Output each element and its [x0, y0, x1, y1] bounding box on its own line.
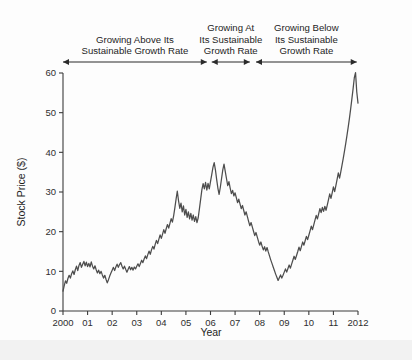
- y-ticklabel: 0: [51, 305, 56, 316]
- arrow-head-left-icon: [212, 59, 218, 65]
- y-axis-ticks: [59, 73, 63, 311]
- x-ticklabel: 10: [304, 317, 315, 328]
- y-axis-ticklabels: 0102030405060: [45, 67, 56, 316]
- arrow-head-left-icon: [63, 59, 69, 65]
- y-ticklabel: 50: [45, 107, 56, 118]
- x-ticklabel: 08: [254, 317, 265, 328]
- arrow-head-left-icon: [256, 59, 262, 65]
- x-ticklabel: 05: [181, 317, 192, 328]
- annotation-text-line: Growing Above Its: [96, 34, 174, 45]
- annotations-layer: Growing Above ItsSustainable Growth Rate…: [63, 22, 357, 65]
- y-ticklabel: 20: [45, 226, 56, 237]
- x-ticklabel: 11: [328, 317, 338, 328]
- x-ticklabel: 2012: [347, 317, 368, 328]
- y-axis-title: Stock Price ($): [15, 158, 27, 227]
- annotation-phase-1: Growing Above ItsSustainable Growth Rate: [63, 34, 207, 66]
- plot-area: 0102030405060 20000102030405060708091011…: [45, 67, 368, 328]
- annotation-text-line: Its Sustainable: [275, 34, 338, 45]
- arrow-head-right-icon: [351, 59, 357, 65]
- stock-price-line-chart: Growing Above ItsSustainable Growth Rate…: [0, 0, 412, 360]
- figure-container: Growing Above ItsSustainable Growth Rate…: [0, 0, 412, 360]
- annotation-text-line: Growing At: [207, 22, 254, 33]
- x-ticklabel: 09: [279, 317, 290, 328]
- x-ticklabel: 02: [107, 317, 118, 328]
- arrow-head-right-icon: [201, 59, 207, 65]
- x-ticklabel: 2000: [52, 317, 73, 328]
- annotation-phase-2: Growing AtIts SustainableGrowth Rate: [199, 22, 262, 65]
- x-ticklabel: 07: [230, 317, 241, 328]
- stock-price-series-line: [63, 73, 358, 292]
- annotation-text-line: Growth Rate: [204, 45, 258, 56]
- x-axis-title: Year: [200, 326, 222, 338]
- annotation-phase-3: Growing BelowIts SustainableGrowth Rate: [256, 22, 357, 65]
- x-ticklabel: 01: [82, 317, 93, 328]
- y-ticklabel: 60: [45, 67, 56, 78]
- arrow-head-right-icon: [244, 59, 250, 65]
- y-ticklabel: 40: [45, 147, 56, 158]
- annotation-text-line: Its Sustainable: [199, 34, 262, 45]
- annotation-text-line: Sustainable Growth Rate: [82, 45, 189, 56]
- x-ticklabel: 03: [131, 317, 142, 328]
- annotation-text-line: Growing Below: [274, 22, 339, 33]
- annotation-text-line: Growth Rate: [279, 45, 333, 56]
- x-axis-ticks: [63, 311, 358, 315]
- x-ticklabel: 04: [156, 317, 167, 328]
- y-ticklabel: 10: [45, 266, 56, 277]
- y-ticklabel: 30: [45, 186, 56, 197]
